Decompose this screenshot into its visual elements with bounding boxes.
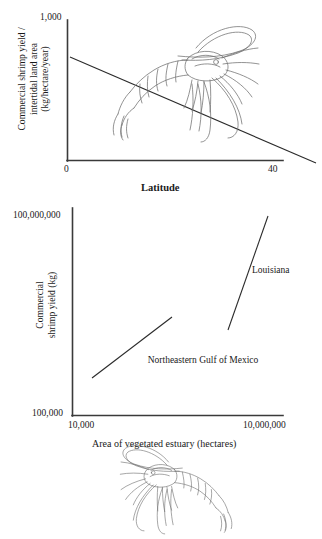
y-axis-title-line-1: Commercial shrimp yield / xyxy=(16,6,28,152)
y-axis-title-line-2: intertidal land area xyxy=(28,6,40,152)
x-axis-tick-min-bottom: 10,000 xyxy=(68,421,94,431)
x-axis-title-bottom: Area of vegetated estuary (hectares) xyxy=(92,438,236,449)
y-axis-tick-max-bottom: 100,000,000 xyxy=(13,211,61,221)
trend-line-northeastern-gulf xyxy=(92,317,172,378)
annotation-northeastern-gulf: Northeastern Gulf of Mexico xyxy=(138,355,268,366)
y-axis-title-line-2: shrimp yield (kg) xyxy=(46,225,58,385)
axis-lines-bottom xyxy=(72,208,283,416)
x-axis-tick-max-bottom: 10,000,000 xyxy=(243,421,286,431)
y-axis-title-line-1: Commercial xyxy=(34,225,46,385)
y-axis-title-line-3: (kg/hectare/year) xyxy=(39,6,51,152)
y-axis-title-top: Commercial shrimp yield / intertidal lan… xyxy=(16,6,51,152)
chart-panel-latitude-yield: 1,000 0 40 Commercial shrimp yield / int… xyxy=(0,0,322,200)
annotation-louisiana: Louisiana xyxy=(252,265,289,276)
y-axis-tick-min-bottom: 100,000 xyxy=(32,409,63,419)
x-axis-title-top: Latitude xyxy=(141,182,180,193)
x-axis-tick-max-top: 40 xyxy=(268,165,278,175)
x-axis-tick-min-top: 0 xyxy=(64,165,69,175)
shrimp-illustration xyxy=(100,18,262,146)
y-axis-title-bottom: Commercial shrimp yield (kg) xyxy=(34,225,57,385)
